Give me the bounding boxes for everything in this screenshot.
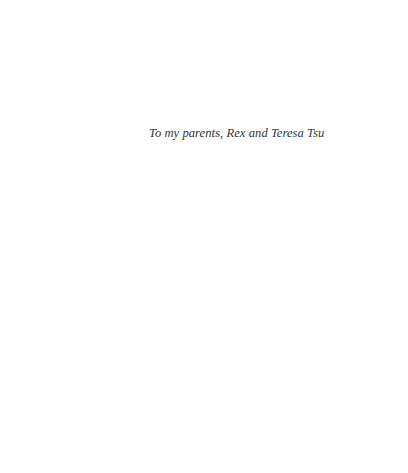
dedication-text: To my parents, Rex and Teresa Tsu <box>149 125 324 141</box>
dedication-page: To my parents, Rex and Teresa Tsu <box>0 0 408 473</box>
